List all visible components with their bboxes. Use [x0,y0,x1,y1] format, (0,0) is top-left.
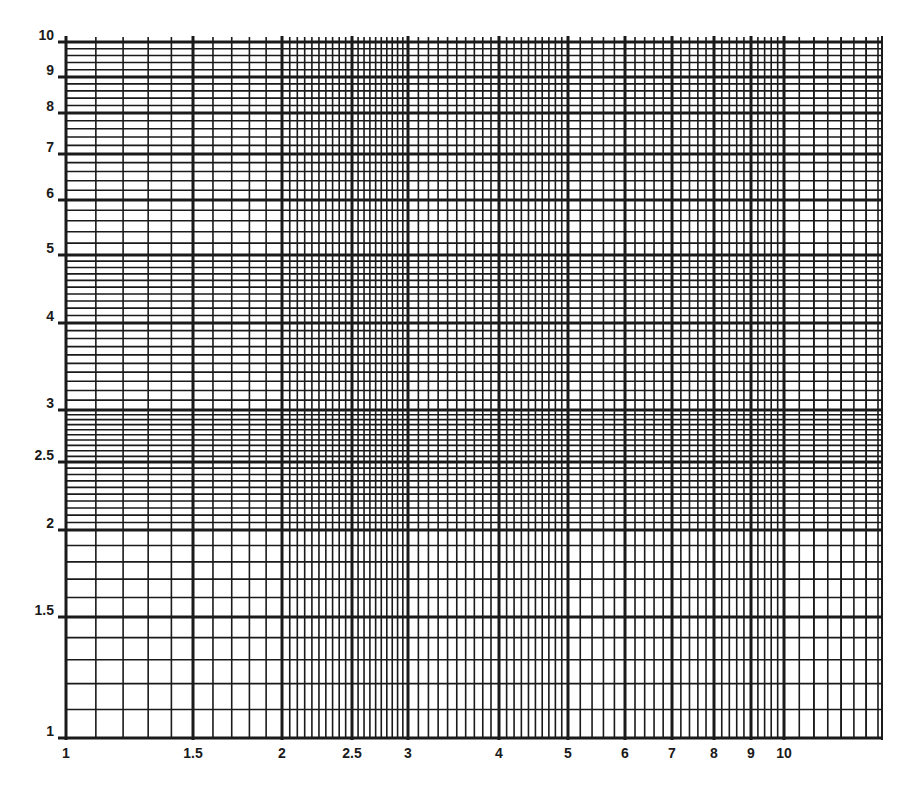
y-tick-label: 9 [46,62,54,78]
x-tick-label: 7 [668,745,676,761]
x-tick-label: 2 [278,745,286,761]
log-log-graph-paper: 11.522.5345678910 11.522.5345678910 [0,0,908,786]
y-tick-label: 6 [46,185,54,201]
x-tick-label: 5 [564,745,572,761]
x-tick-label: 6 [621,745,629,761]
minor-grid-lines [66,37,882,738]
y-tick-label: 7 [46,139,54,155]
y-tick-label: 1.5 [35,602,55,618]
y-tick-label: 4 [46,308,54,324]
y-axis-tick-labels: 11.522.5345678910 [35,27,55,739]
x-tick-label: 1 [62,745,70,761]
y-tick-label: 2 [46,515,54,531]
y-tick-label: 8 [46,98,54,114]
x-tick-label: 2.5 [342,745,362,761]
x-tick-label: 9 [747,745,755,761]
x-tick-label: 3 [404,745,412,761]
y-tick-label: 5 [46,240,54,256]
y-tick-label: 3 [46,395,54,411]
y-tick-label: 1 [46,723,54,739]
x-axis-tick-labels: 11.522.5345678910 [62,745,792,761]
x-tick-label: 8 [710,745,718,761]
x-tick-label: 10 [776,745,792,761]
y-tick-label: 10 [38,27,54,43]
y-tick-label: 2.5 [35,447,55,463]
x-tick-label: 4 [495,745,503,761]
x-tick-label: 1.5 [183,745,203,761]
